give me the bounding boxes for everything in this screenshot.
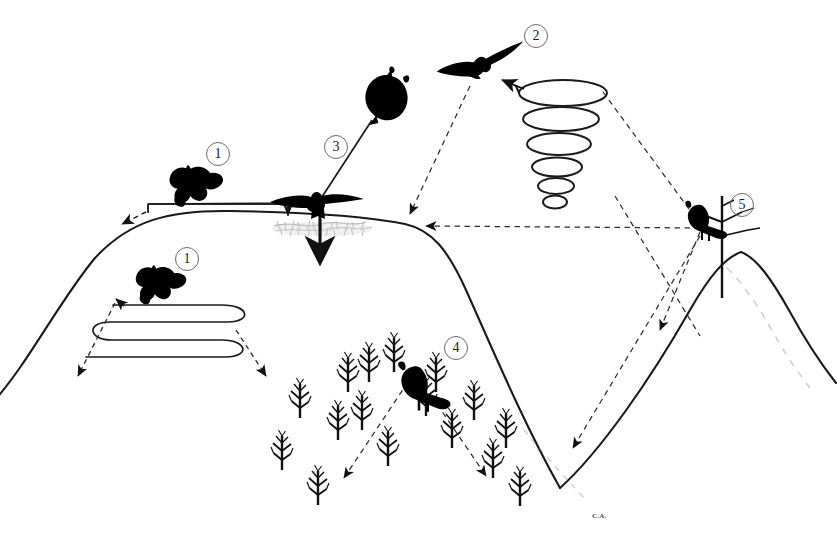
- thermal-spiral-exit-arrow: [502, 80, 524, 89]
- marker-4: 4: [444, 336, 468, 360]
- ca-text-label: C.A.: [592, 512, 606, 520]
- perch-attack-left: [344, 382, 408, 478]
- flight-path-crest-bracket: [122, 203, 288, 224]
- marker-2: 2: [524, 24, 548, 48]
- flight-path-thermal-spiral: [516, 80, 607, 209]
- terrain-right-peak: [560, 252, 836, 488]
- dashed-snag-to-valley: [573, 236, 700, 448]
- bird-quartering-upper: [168, 162, 225, 208]
- dashed-spiral-to-snag: [603, 92, 700, 224]
- marker-1-lower: 1: [175, 247, 199, 271]
- diagram-canvas: [0, 0, 837, 549]
- flight-path-serpentine: [78, 299, 266, 376]
- marker-5: 5: [730, 193, 754, 217]
- bird-soaring: [435, 41, 527, 83]
- bird-landing-spread-wings: [270, 192, 364, 219]
- dashed-soar-to-crest: [410, 86, 470, 214]
- dashed-snag-to-crest: [426, 226, 700, 228]
- raptor-behaviour-diagram: 1 1 2 3 4 5 C.A.: [0, 0, 837, 549]
- bird-stooping: [359, 62, 413, 131]
- flight-path-stoop: [320, 120, 372, 200]
- marker-1-upper: 1: [206, 142, 230, 166]
- perch-attack-right: [437, 404, 486, 476]
- terrain-left-ridge: [0, 211, 560, 488]
- ground-vegetation-patch: [272, 221, 372, 236]
- terrain-faint-contour: [524, 268, 810, 500]
- woodland-trees: [271, 332, 531, 506]
- marker-3: 3: [324, 135, 348, 159]
